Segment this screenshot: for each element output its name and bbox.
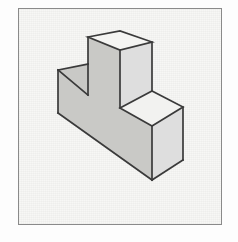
isometric-drawing bbox=[0, 0, 238, 242]
figure-root bbox=[0, 0, 238, 242]
